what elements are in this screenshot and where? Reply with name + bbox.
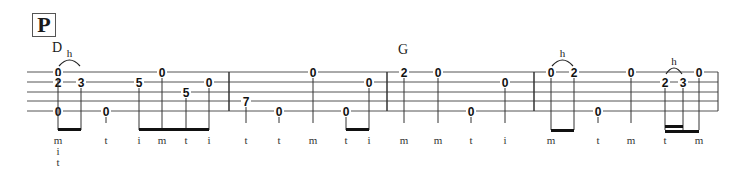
technique-label: h [67,47,73,59]
fret-number: 0 [595,105,602,119]
fret-number: 2 [571,66,578,80]
finger-label: i [503,134,506,146]
finger-label: t [56,156,59,168]
finger-label: m [309,134,318,146]
fret-number: 0 [502,76,509,90]
fret-number: 0 [310,66,317,80]
fret-number: 5 [183,86,190,100]
beam [665,125,683,128]
finger-label: i [207,134,210,146]
fret-number: 0 [103,105,110,119]
fret-number: 0 [548,66,555,80]
technique-label: h [560,47,566,59]
finger-label: t [344,134,347,146]
fret-number: 0 [343,105,350,119]
finger-label: m [158,134,167,146]
finger-label: m [400,134,409,146]
hammer-on-arc [666,68,682,74]
finger-label: i [137,134,140,146]
fret-number: 0 [206,76,213,90]
fret-number: 0 [276,105,283,119]
beam [665,130,699,133]
fret-number: 3 [78,76,85,90]
fret-number: 0 [628,66,635,80]
fret-number: 0 [468,105,475,119]
beam [139,128,209,131]
hammer-on-arc [59,60,80,66]
finger-label: t [596,134,599,146]
finger-label: t [277,134,280,146]
finger-label: m [434,134,443,146]
fret-number: 5 [136,76,143,90]
finger-label: t [104,134,107,146]
finger-label: m [695,134,704,146]
fret-number: 3 [680,76,687,90]
tablature-staff: 020mit30t5i0m5t0i7t0t0m0t0i2m0m0t0i0m20t… [0,0,747,183]
finger-label: m [547,134,556,146]
finger-label: t [663,134,666,146]
fret-number: 0 [366,76,373,90]
finger-label: i [367,134,370,146]
finger-label: t [469,134,472,146]
fret-number: 7 [243,95,250,109]
finger-label: t [184,134,187,146]
finger-label: t [244,134,247,146]
fret-number: 0 [696,66,703,80]
finger-label: m [627,134,636,146]
fret-number: 0 [159,66,166,80]
fret-number: 0 [435,66,442,80]
beam [346,128,369,131]
fret-number: 2 [401,66,408,80]
fret-number: 2 [662,76,669,90]
beam [551,129,574,132]
technique-label: h [671,55,677,67]
beam [58,128,81,131]
